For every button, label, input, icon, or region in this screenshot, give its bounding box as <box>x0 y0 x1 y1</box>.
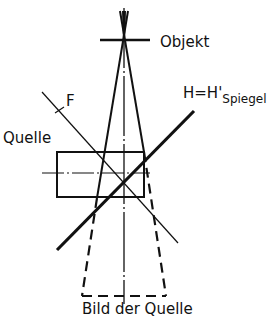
object-label: Objekt <box>160 35 209 50</box>
image-label: Bild der Quelle <box>82 302 193 317</box>
mirror-label-sub: Spiegel <box>222 92 266 106</box>
mirror-label-main: H=H' <box>183 84 222 102</box>
diagram-canvas: Objekt F H=H'Spiegel Quelle Bild der Que… <box>0 0 274 324</box>
focus-label: F <box>66 94 75 109</box>
source-label: Quelle <box>3 131 51 146</box>
optics-diagram <box>0 0 274 324</box>
mirror-label: H=H'Spiegel <box>183 86 267 105</box>
